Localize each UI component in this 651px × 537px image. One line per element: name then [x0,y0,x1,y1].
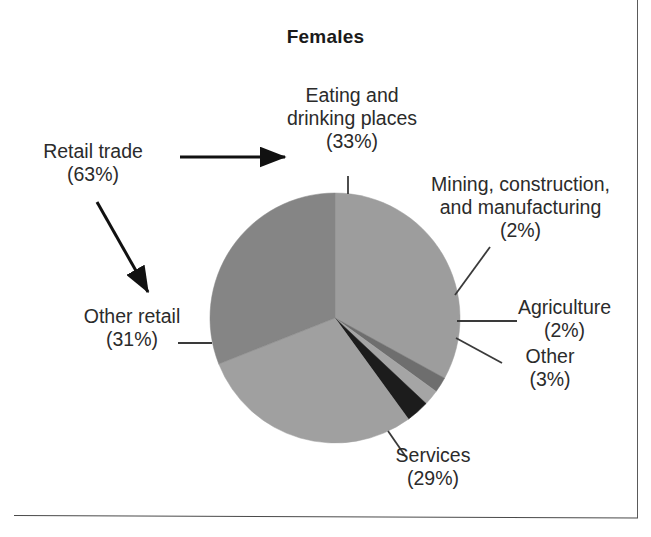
slice-label-other: Other (3%) [495,345,605,391]
pie-chart-figure: Females Eating and drinking places (33%)… [0,0,651,537]
slice-label-eating-and-drinking-places: Eating and drinking places (33%) [257,84,447,153]
group-label-retail-trade: Retail trade (63%) [8,140,178,186]
callout-lines-svg [0,0,651,537]
slice-label-other-retail: Other retail (31%) [52,305,212,351]
leader-line-mining [455,247,490,295]
leader-arrow-retail-trade-other-retail [97,202,148,292]
slice-label-services: Services (29%) [358,444,508,490]
slice-label-agriculture: Agriculture (2%) [492,296,637,342]
slice-label-mining-construction-manufacturing: Mining, construction, and manufacturing … [398,173,643,242]
